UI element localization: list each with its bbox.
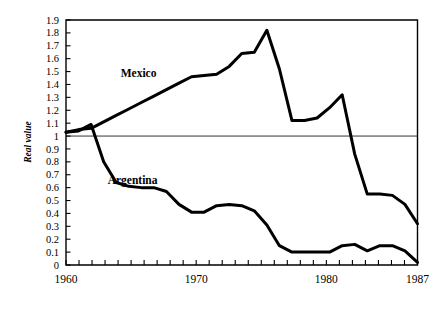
y-axis-tick-label: 0.8 [46,156,59,167]
y-axis-tick-label: 1.4 [46,79,60,90]
y-axis-tick-labels: 1.91.81.71.61.51.41.31.21.110.90.80.70.6… [46,15,60,271]
x-axis-tick-labels: 1960197019801987 [55,273,430,285]
y-axis-tick-label: 1.1 [46,118,59,129]
x-axis-tick-label: 1960 [55,273,78,285]
y-axis-tick-label: 1 [54,131,59,142]
y-axis-tick-label: 1.2 [46,105,59,116]
series-line-mexico [66,30,418,223]
y-axis-tick-label: 0 [54,260,59,271]
y-axis-tick-label: 0.4 [46,208,60,219]
chart-svg: Real value 1.91.81.71.61.51.41.31.21.110… [0,0,439,309]
data-series-group [66,30,418,262]
x-axis-tick-marks [66,260,418,265]
plot-frame [66,20,418,265]
y-axis-tick-label: 1.7 [46,40,59,51]
x-axis-tick-label: 1987 [406,273,429,285]
y-axis-tick-label: 0.5 [46,195,59,206]
x-axis-tick-label: 1970 [185,273,208,285]
y-axis-tick-label: 0.1 [46,247,59,258]
y-axis-tick-label: 0.9 [46,144,59,155]
series-label-argentina: Argentina [108,174,158,187]
x-axis-tick-label: 1980 [315,273,338,285]
y-axis-tick-label: 1.8 [46,27,59,38]
series-annotations: MexicoArgentina [108,67,158,187]
y-axis-tick-label: 1.5 [46,66,59,77]
series-label-mexico: Mexico [121,67,157,79]
y-axis-tick-label: 0.6 [46,182,59,193]
y-axis-tick-label: 0.7 [46,169,59,180]
y-axis-tick-label: 1.6 [46,53,59,64]
y-axis-title: Real value [23,121,33,164]
y-axis-tick-label: 1.3 [46,92,59,103]
y-axis-tick-label: 0.3 [46,221,59,232]
y-axis-tick-label: 0.2 [46,234,59,245]
series-line-argentina [66,124,418,262]
chart-figure: Real value 1.91.81.71.61.51.41.31.21.110… [0,0,439,309]
y-axis-tick-label: 1.9 [46,15,59,26]
